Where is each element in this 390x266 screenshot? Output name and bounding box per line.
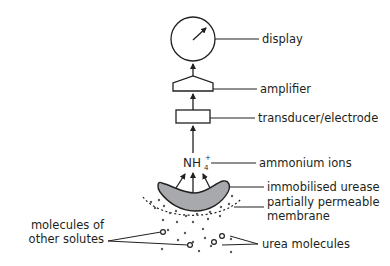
membrane-label-line2: membrane: [267, 209, 330, 223]
other-solutes-label-line1: molecules of: [31, 218, 105, 232]
amplifier-label: amplifier: [260, 82, 311, 96]
urea-leader-1: [230, 236, 258, 244]
transducer-box: [176, 110, 210, 123]
other-solute-molecules: [161, 230, 225, 248]
ammonium-formula: NH: [183, 156, 201, 170]
membrane-label-line1: partially permeable: [267, 195, 379, 209]
display-label: display: [262, 32, 303, 46]
urea-biosensor-diagram: display amplifier transducer/electrode N…: [0, 0, 390, 266]
amplifier-shape: [173, 76, 213, 91]
transducer-label: transducer/electrode: [258, 111, 378, 125]
ammonium-subscript: 4: [204, 164, 209, 172]
display-dial: [171, 17, 215, 61]
urea-leader-2: [222, 244, 258, 245]
product-arrow-right: [203, 174, 210, 188]
other-solutes-leader-2: [108, 241, 188, 245]
ammonium-label: ammonium ions: [259, 156, 352, 170]
other-solutes-leader-1: [108, 232, 161, 241]
needle-icon: [193, 28, 206, 40]
product-arrow-left: [176, 174, 185, 188]
ammonium-charge: +: [205, 154, 211, 162]
other-solutes-label-line2: other solutes: [29, 232, 104, 246]
urease-layer: [158, 181, 229, 211]
urea-label: urea molecules: [262, 237, 350, 251]
urease-label: immobilised urease: [267, 180, 380, 194]
